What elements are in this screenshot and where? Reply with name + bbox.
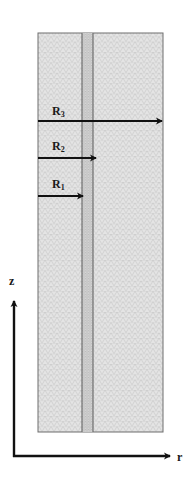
mesh-domain <box>38 33 163 432</box>
z-axis-label: z <box>9 274 15 288</box>
r-axis-label: r <box>177 450 183 464</box>
mesh-geometry-diagram: R3 R2 R1 z r <box>0 0 196 478</box>
inner-strip <box>82 33 93 432</box>
